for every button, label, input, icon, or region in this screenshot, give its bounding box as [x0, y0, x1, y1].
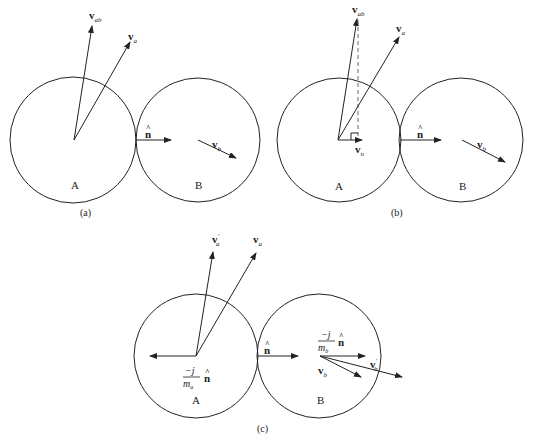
label-n-hat: n: [264, 344, 270, 356]
vector-v-a-arrow: [74, 42, 130, 140]
vector-v-b-prime-arrow: [320, 356, 402, 377]
vector-v-a-prime-arrow: [196, 252, 213, 356]
impulse-b-unit: n: [338, 336, 344, 348]
label-v-b-prime: v′b: [370, 357, 378, 373]
impulse-a-label: −j ma ^ n: [183, 365, 210, 390]
label-v-ab: vab: [352, 3, 365, 18]
caption-c: (c): [257, 423, 268, 435]
label-v-n: vn: [355, 143, 365, 158]
label-v-ab: vab: [89, 9, 102, 24]
body-a-label: A: [192, 394, 200, 406]
body-a-label: A: [71, 179, 79, 191]
vector-v-a-arrow: [196, 253, 256, 356]
label-n-hat: n: [145, 128, 151, 140]
panel-b: vab va vn ^ n vb A B (b): [277, 3, 523, 219]
panel-c: v′a va −j ma ^ n ^ n −j mb ^ n vb v′b A …: [134, 232, 402, 435]
label-n-hat: n: [417, 128, 423, 140]
label-v-a: va: [396, 22, 406, 37]
caption-b: (b): [391, 207, 403, 219]
body-b-label: B: [317, 394, 324, 406]
body-b-label: B: [459, 180, 466, 192]
impulse-b-numerator: −j: [321, 329, 331, 340]
label-v-b: vb: [477, 138, 487, 153]
label-v-a: va: [253, 233, 263, 248]
label-v-b: vb: [318, 364, 328, 379]
vector-v-ab-arrow: [74, 26, 92, 140]
impulse-b-label: −j mb ^ n: [318, 329, 344, 354]
collision-diagram: vab va ^ n vb A B (a) vab va vn ^ n vb A…: [0, 0, 533, 440]
impulse-a-denominator: ma: [183, 378, 193, 390]
body-a-label: A: [335, 180, 343, 192]
label-v-b: vb: [212, 138, 222, 153]
panel-a: vab va ^ n vb A B (a): [10, 9, 260, 219]
caption-a: (a): [80, 207, 91, 219]
impulse-b-denominator: mb: [318, 342, 328, 354]
impulse-a-unit: n: [204, 372, 210, 384]
vector-v-a-arrow: [338, 37, 399, 140]
label-v-a-prime: v′a: [212, 232, 220, 248]
right-angle-marker: [351, 133, 358, 140]
impulse-a-numerator: −j: [185, 365, 195, 376]
body-b-label: B: [195, 179, 202, 191]
